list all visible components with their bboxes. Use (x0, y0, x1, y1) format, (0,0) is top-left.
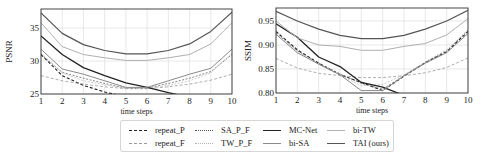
charts-canvas: 12345678910253035time stepsPSNR 12345678… (0, 0, 489, 120)
x-tick-label: 9 (444, 95, 449, 105)
legend-item-tai: TAI (ours) (327, 137, 389, 149)
legend-item-mc-net: MC-Net (263, 124, 317, 136)
legend-swatch (129, 130, 147, 131)
grid (41, 9, 232, 94)
y-tick-label: 25 (30, 89, 40, 99)
y-tick-label: 0.95 (258, 16, 274, 26)
ssim-chart: 123456789100.800.850.900.95time stepsSSI… (243, 8, 473, 115)
legend-swatch (327, 130, 345, 131)
legend-label: bi-TW (353, 125, 376, 135)
x-tick-label: 3 (316, 95, 321, 105)
x-tick-label: 6 (380, 95, 385, 105)
legend-label: TAI (ours) (353, 138, 389, 148)
legend-item-bi-sa: bi-SA (263, 137, 309, 149)
y-axis-label: SSIM (243, 40, 253, 61)
legend-item-tw-p-f: TW_P_F (195, 137, 252, 149)
x-tick-label: 7 (402, 95, 407, 105)
series-line-mc-net (276, 24, 468, 109)
psnr-chart: 12345678910253035time stepsPSNR (4, 9, 237, 116)
x-tick-label: 2 (60, 96, 65, 106)
legend-swatch (263, 143, 281, 144)
legend-swatch (129, 143, 147, 144)
legend-item-sa-p-f: SA_P_F (195, 124, 250, 136)
series-line-tai-ours (276, 10, 468, 38)
y-tick-label: 0.85 (258, 64, 274, 74)
legend: repeat_P repeat_F SA_P_F TW_P_F MC-Net b… (120, 120, 394, 152)
x-axis-label: time steps (120, 107, 152, 116)
legend-item-repeat-p: repeat_P (129, 124, 185, 136)
legend-swatch (263, 130, 281, 131)
x-tick-label: 4 (102, 96, 107, 106)
y-tick-label: 0.90 (258, 40, 274, 50)
legend-label: repeat_F (155, 138, 185, 148)
y-axis-label: PSNR (4, 40, 14, 63)
legend-label: repeat_P (155, 125, 185, 135)
x-tick-label: 10 (228, 96, 238, 106)
series-line-repeat-f (41, 74, 232, 89)
y-tick-label: 0.80 (258, 88, 274, 98)
series-line-repeat-p (41, 55, 232, 114)
series-group (41, 12, 232, 114)
x-tick-label: 3 (81, 96, 86, 106)
plot-frame (41, 9, 232, 94)
legend-swatch (195, 130, 213, 131)
legend-swatch (195, 143, 213, 144)
x-tick-label: 4 (338, 95, 343, 105)
x-tick-label: 8 (187, 96, 192, 106)
series-line-bi-sa (41, 49, 232, 87)
legend-label: TW_P_F (221, 138, 252, 148)
series-group (276, 10, 468, 108)
x-tick-label: 5 (124, 96, 129, 106)
x-tick-label: 1 (274, 95, 279, 105)
series-line-repeat-f (276, 58, 468, 78)
series-line-bi-sa (276, 34, 468, 91)
x-tick-label: 10 (464, 95, 474, 105)
legend-item-repeat-f: repeat_F (129, 137, 185, 149)
x-tick-label: 2 (295, 95, 300, 105)
x-tick-label: 9 (209, 96, 214, 106)
legend-label: bi-SA (289, 138, 309, 148)
series-line-bi-tw (41, 23, 232, 61)
legend-label: SA_P_F (221, 125, 250, 135)
x-tick-label: 6 (145, 96, 150, 106)
x-tick-label: 7 (166, 96, 171, 106)
legend-item-bi-tw: bi-TW (327, 124, 376, 136)
series-line-sa-p-f (276, 31, 468, 90)
x-tick-label: 5 (359, 95, 364, 105)
x-tick-label: 1 (39, 96, 44, 106)
legend-label: MC-Net (289, 125, 317, 135)
legend-swatch (327, 143, 345, 144)
y-tick-label: 35 (30, 23, 40, 33)
x-axis-label: time steps (356, 106, 388, 115)
x-tick-label: 8 (423, 95, 428, 105)
y-tick-label: 30 (30, 56, 40, 66)
